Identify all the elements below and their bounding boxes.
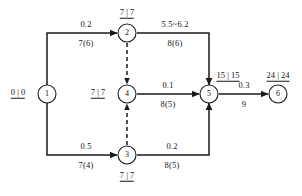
edge-1-to-3-lower-label: 7(4)	[79, 161, 94, 170]
node-2-time-label: 7 | 7	[120, 8, 134, 19]
node-6-time-label: 24 | 24	[267, 71, 290, 82]
node-3-time-label: 7 | 7	[120, 171, 134, 182]
edge-3-to-5-upper-label: 0.2	[166, 142, 177, 151]
edge-1-to-3-upper-label: 0.5	[80, 142, 91, 151]
edge-3-to-5-lower-label: 8(5)	[165, 161, 180, 170]
node-2-label: 2	[125, 29, 129, 37]
node-4-label: 4	[125, 90, 129, 98]
edge-5-to-6-lower-label: 9	[242, 100, 246, 109]
edge-2-to-5-lower-label: 8(6)	[168, 39, 183, 48]
edge-2-to-5-upper-label: 5.5~6.2	[161, 20, 188, 29]
network-diagram-canvas: 1 2 3 4 5 6 0 | 0 7 | 7 7 | 7 7 | 7 15 |…	[0, 0, 302, 196]
node-4-time-label: 7 | 7	[91, 88, 105, 99]
edge-1-to-2-lower-label: 7(6)	[79, 39, 94, 48]
edge-5-to-6-upper-label: 0.3	[238, 81, 249, 90]
edge-4-to-5-lower-label: 8(5)	[161, 100, 176, 109]
node-3-label: 3	[125, 151, 129, 159]
node-6-label: 6	[276, 90, 280, 98]
node-5-label: 5	[207, 90, 211, 98]
edge-1-to-2-upper-label: 0.2	[80, 20, 91, 29]
edge-4-to-5-upper-label: 0.1	[162, 81, 173, 90]
node-1-time-label: 0 | 0	[11, 88, 25, 99]
network-graph-svg	[0, 0, 302, 196]
node-5-time-label: 15 | 15	[217, 71, 240, 82]
node-1-label: 1	[45, 90, 49, 98]
